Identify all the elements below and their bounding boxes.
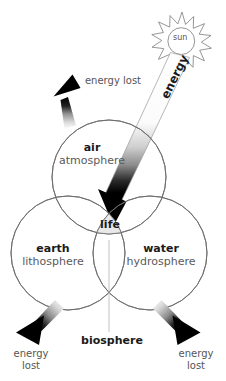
energy-lost-label-bottom-left: energy lost: [14, 348, 49, 372]
biosphere-title: biosphere: [81, 334, 143, 347]
energy-lost-arrow-bottom-right: [153, 300, 201, 345]
sun-label: sun: [173, 33, 187, 42]
energy-lost-label-bottom-right: energy lost: [179, 348, 214, 372]
sphere-name-water: water: [127, 242, 196, 255]
biosphere-diagram: energy lost sun energy air atmosphere li…: [0, 0, 226, 381]
sphere-label-earth: earth lithosphere: [22, 242, 84, 268]
energy-lost-arrow-bottom-left: [16, 300, 64, 345]
sphere-name-earth: earth: [22, 242, 84, 255]
sphere-label-water: water hydrosphere: [127, 242, 196, 268]
energy-lost-label-top: energy lost: [85, 75, 141, 86]
sphere-sub-air: atmosphere: [59, 154, 125, 167]
sphere-sub-water: hydrosphere: [127, 255, 196, 268]
sphere-sub-earth: lithosphere: [22, 255, 84, 268]
sphere-label-air: air atmosphere: [59, 141, 125, 167]
energy-lost-arrow-top: [54, 75, 81, 130]
life-label: life: [100, 218, 120, 231]
diagram-canvas: [0, 0, 226, 381]
sphere-name-air: air: [59, 141, 125, 154]
